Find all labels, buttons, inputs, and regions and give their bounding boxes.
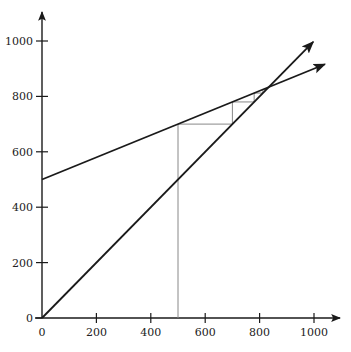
- y-tick-label: 600: [12, 146, 33, 159]
- y-tick-label: 0: [26, 312, 33, 325]
- x-tick-label: 800: [249, 326, 270, 339]
- y-tick-label: 200: [12, 257, 33, 270]
- axis-ticks: 0200400600800100002004006008001000: [5, 35, 328, 339]
- x-tick-label: 0: [39, 326, 46, 339]
- x-tick-label: 1000: [300, 326, 328, 339]
- x-tick-label: 400: [140, 326, 161, 339]
- y-tick-label: 400: [12, 201, 33, 214]
- y-tick-label: 800: [12, 90, 33, 103]
- y-tick-label: 1000: [5, 35, 33, 48]
- expenditure-line: [42, 64, 325, 179]
- x-tick-label: 200: [86, 326, 107, 339]
- chart: 0200400600800100002004006008001000: [0, 0, 351, 352]
- x-tick-label: 600: [195, 326, 216, 339]
- cobweb-path: [178, 89, 266, 318]
